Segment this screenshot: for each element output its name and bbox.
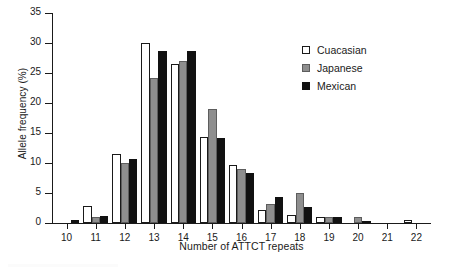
x-axis-tick	[329, 224, 330, 229]
legend-item: Japanese	[302, 60, 367, 75]
allele-frequency-bar-chart: Allele frequency (%) 05101520253035 1011…	[0, 0, 451, 273]
x-axis-tick	[300, 224, 301, 229]
y-axis-tick-label: 5	[35, 186, 41, 197]
y-axis-tick: 10	[45, 163, 52, 164]
bar	[237, 169, 245, 223]
bar	[287, 215, 295, 223]
bar	[71, 220, 79, 223]
x-axis-tick	[183, 224, 184, 229]
bar	[121, 163, 129, 223]
legend-item: Cuacasian	[302, 42, 367, 57]
bar	[404, 220, 412, 223]
bar	[362, 221, 370, 223]
bar	[112, 154, 120, 223]
y-axis-tick: 20	[45, 103, 52, 104]
y-axis-line	[52, 13, 53, 224]
x-axis-tick	[358, 224, 359, 229]
bar	[187, 51, 195, 223]
y-axis-title: Allele frequency (%)	[17, 34, 28, 194]
y-axis-tick: 15	[45, 133, 52, 134]
x-axis-tick	[154, 224, 155, 229]
y-axis-tick-label: 25	[30, 66, 41, 77]
bar	[258, 210, 266, 223]
bar	[325, 217, 333, 223]
bar	[316, 217, 324, 223]
y-axis-tick-label: 30	[30, 36, 41, 47]
bar	[158, 51, 166, 223]
bar	[217, 138, 225, 223]
legend-item-label: Mexican	[317, 80, 356, 92]
bar	[171, 64, 179, 223]
x-axis-tick	[416, 224, 417, 229]
y-axis-tick-label: 10	[30, 156, 41, 167]
bar	[229, 165, 237, 223]
legend-item: Mexican	[302, 78, 367, 93]
y-axis-tick-label: 0	[35, 216, 41, 227]
x-axis-tick	[96, 224, 97, 229]
x-axis-tick	[242, 224, 243, 229]
x-axis-title: Number of ATTCT repeats	[52, 240, 431, 252]
y-axis-tick: 30	[45, 43, 52, 44]
x-axis-tick	[271, 224, 272, 229]
bar	[100, 216, 108, 223]
legend: CuacasianJapaneseMexican	[302, 42, 367, 96]
y-axis-tick: 5	[45, 193, 52, 194]
legend-item-label: Cuacasian	[317, 44, 367, 56]
bar	[354, 217, 362, 223]
x-axis-tick	[67, 224, 68, 229]
bar	[266, 204, 274, 223]
bar	[141, 43, 149, 223]
bar	[333, 217, 341, 223]
x-axis-tick	[387, 224, 388, 229]
bar	[200, 137, 208, 223]
bar	[83, 206, 91, 223]
x-axis-tick	[212, 224, 213, 229]
y-axis-tick: 35	[45, 13, 52, 14]
open-square-icon	[302, 46, 310, 54]
x-axis-tick	[125, 224, 126, 229]
black-square-icon	[302, 82, 310, 90]
caption-remnant	[8, 264, 118, 267]
bar	[208, 109, 216, 223]
bar	[246, 173, 254, 223]
y-axis-tick-label: 35	[30, 6, 41, 17]
y-axis-tick-label: 15	[30, 126, 41, 137]
bar	[92, 217, 100, 223]
bar	[179, 61, 187, 223]
y-axis-tick: 25	[45, 73, 52, 74]
bar	[296, 193, 304, 223]
plot-area: 05101520253035 1011121314151617181920212…	[52, 13, 431, 224]
bar	[304, 207, 312, 223]
y-axis-tick-label: 20	[30, 96, 41, 107]
y-axis-tick: 0	[45, 223, 52, 224]
grey-square-icon	[302, 64, 310, 72]
bar	[275, 197, 283, 223]
bar	[129, 159, 137, 223]
legend-item-label: Japanese	[317, 62, 363, 74]
bar	[150, 78, 158, 223]
